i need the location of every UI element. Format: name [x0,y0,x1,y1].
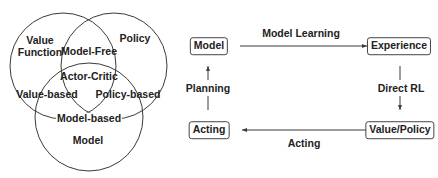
value-function-label-line1: Value [18,34,62,46]
policy-label: Policy [120,33,151,44]
value-based-label: Value-based [16,89,77,100]
policy-circle [61,13,167,119]
rl-taxonomy-diagram: Value Function Policy Model-Free Actor-C… [0,0,438,178]
model-free-label: Model-Free [61,46,117,57]
actor-critic-label: Actor-Critic [60,71,118,82]
acting-node: Acting [189,121,230,139]
value-policy-node: Value/Policy [365,121,434,139]
model-node: Model [190,37,228,55]
experience-node: Experience [367,37,431,55]
value-function-label-line2: Function [18,46,62,58]
acting-edge-label: Acting [288,138,321,149]
model-based-label: Model-based [56,113,122,124]
policy-based-label: Policy-based [96,89,161,100]
model-label: Model [73,135,103,146]
direct-rl-label: Direct RL [378,83,425,94]
value-function-circle [10,13,116,119]
planning-label: Planning [186,83,230,94]
model-learning-label: Model Learning [262,28,340,39]
value-function-label: Value Function [18,34,62,58]
